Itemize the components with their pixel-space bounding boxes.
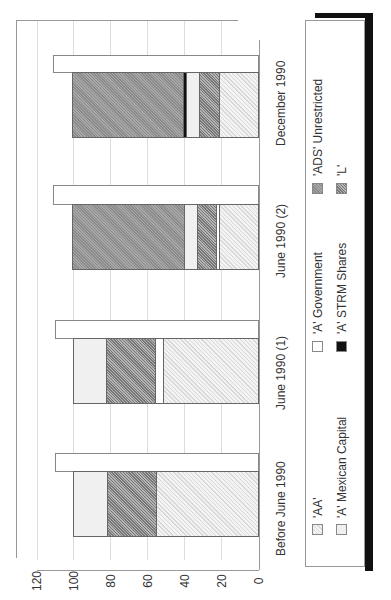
top-wall-edge [16,20,238,21]
segment-l [107,471,156,537]
segment-aa [156,471,259,537]
bar-face [73,338,259,404]
legend-label: 'L' [335,165,349,176]
segment-mexican-capital [73,338,106,404]
tick-label: 120 [30,566,44,596]
legend-swatch-strm-shares [336,341,347,352]
segment-l [197,204,216,270]
segment-ads-unrestricted [72,204,184,270]
segment-government [155,338,163,404]
category-label: June 1990 (1) [274,336,288,410]
bar-3d-top [53,185,259,205]
segment-government [216,204,219,270]
tick-label: 40 [178,566,192,596]
legend-swatch-government [312,341,323,352]
category-label: Before June 1990 [274,461,288,556]
tick-label: 60 [141,566,155,596]
legend-label: 'AA' [311,497,325,518]
segment-mexican-capital [73,471,107,537]
segment-l [106,338,155,404]
category-label: December 1990 [274,61,288,146]
tick-label: 100 [67,566,81,596]
back-wall-edge [16,20,17,558]
bar-face [72,72,259,138]
legend-label: 'ADS' Unrestricted [311,79,325,176]
bar-3d-top [55,453,259,472]
category-label: June 1990 (2) [274,204,288,278]
legend-label: 'A' Government [311,252,325,334]
segment-mexican-capital [186,72,199,138]
value-axis-base [259,40,260,570]
segment-strm-shares [183,72,186,138]
bar-face [73,471,259,537]
legend: 'AA' 'A' Mexican Capital 'A' Government … [305,20,365,567]
segment-aa [163,338,259,404]
segment-ads-unrestricted [72,72,183,138]
tick-label: 80 [104,566,118,596]
chart-page: 0 20 40 60 80 100 120 December 1990 [0,0,391,600]
tick-label: 20 [215,566,229,596]
tick-label: 0 [252,566,266,596]
legend-swatch-l [336,183,347,194]
legend-swatch-ads-unrestricted [312,183,323,194]
segment-l [199,72,219,138]
segment-aa [219,204,259,270]
segment-mexican-capital [184,204,197,270]
legend-shadow [365,16,373,571]
bar-face [72,204,259,270]
legend-swatch-aa [312,524,323,535]
gridline-120 [37,20,38,560]
bar-3d-top [55,320,259,339]
legend-swatch-mexican-capital [336,524,347,535]
legend-label: 'A' STRM Shares [335,243,349,334]
segment-aa [219,72,259,138]
bar-3d-top [53,55,259,73]
legend-label: 'A' Mexican Capital [335,417,349,518]
